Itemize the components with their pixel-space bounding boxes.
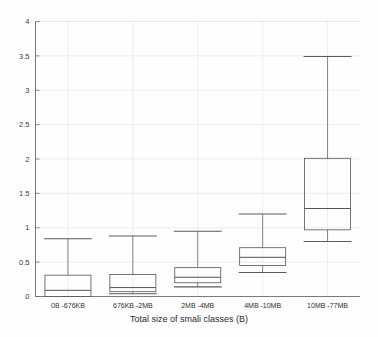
y-tick-label: 1.5: [19, 189, 29, 198]
y-tick-label: 3.5: [19, 52, 29, 61]
x-category-label: 0B -676KB: [51, 302, 85, 309]
y-tick-label: 2: [25, 155, 29, 164]
y-tick-label: 0: [25, 292, 29, 301]
y-tick-label: 2.5: [19, 120, 29, 129]
y-axis-ticks: [36, 22, 40, 297]
y-axis-tick-labels: 00.511.522.533.54: [19, 17, 29, 301]
x-category-label: 2MB -4MB: [181, 302, 214, 309]
x-category-label: 10MB -77MB: [307, 302, 348, 309]
y-tick-label: 0.5: [19, 258, 29, 267]
y-tick-label: 4: [25, 17, 29, 26]
box-plot-chart: 00.511.522.533.54 0B -676KB676KB -2MB2MB…: [0, 0, 378, 337]
x-axis-category-labels: 0B -676KB676KB -2MB2MB -4MB4MB -10MB10MB…: [51, 302, 348, 309]
x-category-label: 4MB -10MB: [244, 302, 281, 309]
x-category-label: 676KB -2MB: [113, 302, 153, 309]
chart-figure: 00.511.522.533.54 0B -676KB676KB -2MB2MB…: [0, 0, 378, 337]
x-axis-title: Total size of smali classes (B): [130, 314, 248, 324]
y-tick-label: 1: [25, 223, 29, 232]
y-tick-label: 3: [25, 86, 29, 95]
